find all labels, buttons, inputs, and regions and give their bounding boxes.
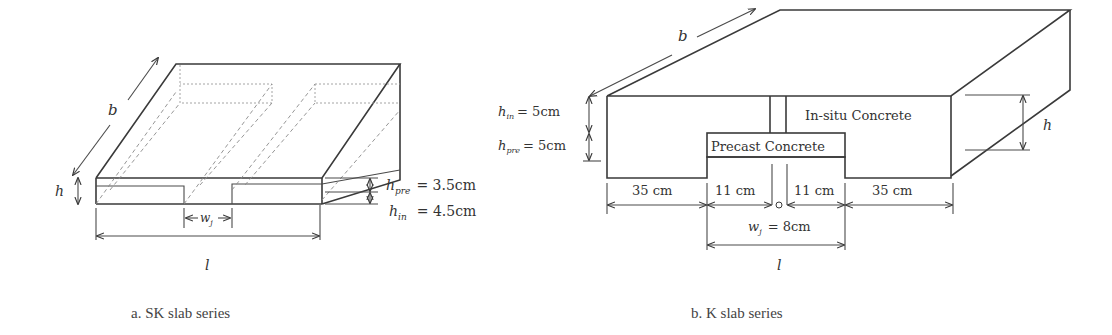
sk-h-in-label: hin= 4.5cm <box>389 203 476 222</box>
k-slab-figure: Precast Concrete In-situ Concrete b hin=… <box>498 9 1070 321</box>
k-h-label: h <box>1043 117 1052 133</box>
dim-35-left: 35 cm <box>632 183 672 198</box>
k-side-face <box>951 10 1070 176</box>
precast-label: Precast Concrete <box>711 139 825 154</box>
sk-h-label: h <box>55 183 64 199</box>
k-h-pre-label: hpre= 5cm <box>498 138 566 155</box>
sk-caption: a. SK slab series <box>131 305 230 321</box>
k-top-face <box>607 10 1070 96</box>
k-wj-label: wj= 8cm <box>748 219 811 236</box>
sk-slab-figure: b h wj l hpre= 3.5cm hin= 4.5cm a. SK sl… <box>55 58 476 321</box>
dim-35-right: 35 cm <box>872 183 912 198</box>
in-situ-label: In-situ Concrete <box>805 108 912 123</box>
k-l-label: l <box>777 257 781 273</box>
k-b-label: b <box>678 27 688 45</box>
sk-b-label: b <box>108 101 118 119</box>
k-caption: b. K slab series <box>691 305 783 321</box>
dim-11-right: 11 cm <box>794 183 834 198</box>
sk-l-label: l <box>205 257 209 273</box>
dim-11-left: 11 cm <box>715 183 755 198</box>
sk-wj-label: wj <box>200 211 213 227</box>
slab-diagram: b h wj l hpre= 3.5cm hin= 4.5cm a. SK sl… <box>0 0 1112 335</box>
k-h-in-label: hin= 5cm <box>498 104 560 121</box>
